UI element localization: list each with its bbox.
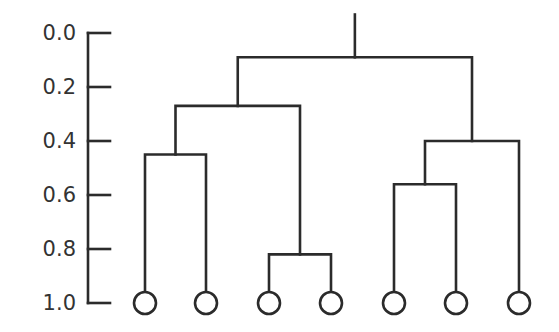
- y-axis-tick-label: 0.2: [43, 75, 76, 99]
- merge-link-C: [176, 106, 301, 255]
- y-axis-tick-label: 0.0: [43, 21, 76, 45]
- y-axis: 0.00.20.40.60.81.0: [43, 21, 110, 315]
- merge-link-E: [425, 141, 519, 292]
- y-axis-tick-label: 0.6: [43, 183, 76, 207]
- leaf-node-3: [258, 292, 280, 314]
- leaf-node-1: [134, 292, 156, 314]
- leaf-node-6: [445, 292, 467, 314]
- leaf-node-4: [320, 292, 342, 314]
- y-axis-tick-label: 0.4: [43, 129, 76, 153]
- leaf-node-7: [508, 292, 530, 314]
- leaf-nodes: [134, 292, 530, 314]
- leaf-node-5: [383, 292, 405, 314]
- dendrogram-chart: 0.00.20.40.60.81.0: [0, 0, 559, 332]
- merge-link-A: [269, 254, 331, 292]
- y-axis-tick-label: 1.0: [43, 291, 76, 315]
- dendrogram-tree: [145, 15, 519, 293]
- merge-link-root: [238, 57, 472, 141]
- merge-link-D: [394, 184, 456, 292]
- merge-link-B: [145, 155, 206, 293]
- leaf-node-2: [195, 292, 217, 314]
- y-axis-tick-label: 0.8: [43, 237, 76, 261]
